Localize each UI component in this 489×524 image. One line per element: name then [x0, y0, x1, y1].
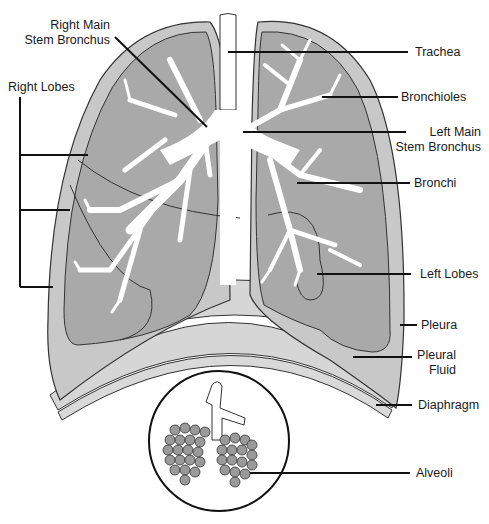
- label-right-main-stem-bronchus-line2: Stem Bronchus: [20, 33, 110, 48]
- label-pleural-fluid: Pleural Fluid: [410, 348, 456, 378]
- label-right-main-stem-bronchus: Right Main Stem Bronchus: [20, 18, 110, 48]
- label-right-main-stem-bronchus-line1: Right Main: [20, 18, 110, 33]
- label-alveoli: Alveoli: [416, 466, 453, 481]
- label-bronchi: Bronchi: [414, 176, 456, 191]
- label-pleural-fluid-line2: Fluid: [410, 363, 456, 378]
- right-lung-tissue: [64, 32, 218, 345]
- label-left-main-stem-bronchus-line2: Stem Bronchus: [381, 140, 481, 155]
- label-left-lobes: Left Lobes: [420, 267, 478, 282]
- label-pleural-fluid-line1: Pleural: [410, 348, 456, 363]
- lung-diagram: [0, 0, 489, 524]
- label-right-lobes: Right Lobes: [8, 80, 75, 95]
- label-trachea: Trachea: [415, 45, 460, 60]
- label-diaphragm: Diaphragm: [418, 398, 479, 413]
- label-bronchioles: Bronchioles: [401, 90, 466, 105]
- label-pleura: Pleura: [421, 318, 457, 333]
- label-left-main-stem-bronchus: Left Main Stem Bronchus: [381, 125, 481, 155]
- trachea-shape: [220, 14, 236, 111]
- label-left-main-stem-bronchus-line1: Left Main: [381, 125, 481, 140]
